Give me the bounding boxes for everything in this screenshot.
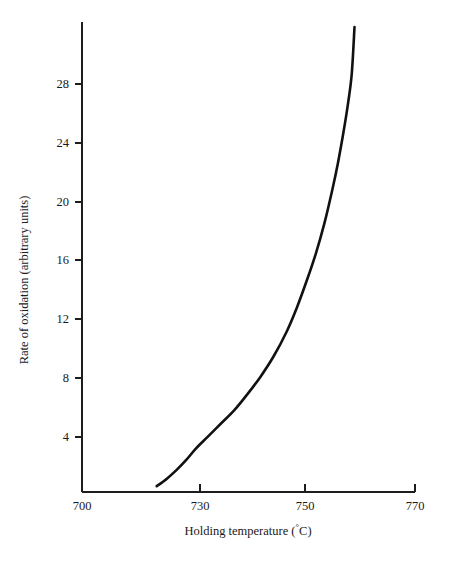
y-tick-label-20: 20 (57, 195, 70, 209)
y-axis-ticks (75, 84, 82, 437)
x-axis-title-text-before: Holding temperature ( (184, 524, 295, 538)
x-tick-label-750: 750 (296, 499, 315, 513)
x-axis-ticks (82, 484, 415, 492)
x-axis-title-text-after: C) (299, 524, 312, 538)
y-tick-labels: 4 8 12 16 20 24 28 (57, 77, 70, 444)
x-tick-label-770: 770 (406, 499, 425, 513)
y-tick-label-16: 16 (57, 253, 70, 267)
x-tick-label-700: 700 (73, 499, 92, 513)
y-tick-label-28: 28 (57, 77, 70, 91)
y-tick-label-4: 4 (63, 430, 70, 444)
y-tick-label-8: 8 (63, 371, 69, 385)
oxidation-rate-curve (157, 27, 355, 486)
y-tick-label-24: 24 (57, 136, 70, 150)
y-axis-title: Rate of oxidation (arbitrary units) (17, 196, 31, 365)
chart-canvas: 700 730 750 770 4 8 12 16 20 24 28 Rate … (0, 0, 461, 562)
x-tick-label-730: 730 (191, 499, 210, 513)
chart-figure: 700 730 750 770 4 8 12 16 20 24 28 Rate … (0, 0, 461, 562)
x-axis-title: Holding temperature (°C) (184, 522, 311, 538)
x-tick-labels: 700 730 750 770 (73, 499, 425, 513)
y-tick-label-12: 12 (57, 312, 70, 326)
